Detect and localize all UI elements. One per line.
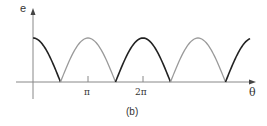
curve-segment-2 bbox=[116, 38, 171, 82]
x-axis-label: θ bbox=[249, 87, 256, 98]
curve-segment-3 bbox=[171, 38, 226, 82]
waveform-curve bbox=[33, 38, 250, 82]
y-axis-label: e bbox=[20, 3, 26, 14]
x-axis-arrow-icon bbox=[249, 80, 256, 85]
tick-label-2pi: 2π bbox=[135, 88, 147, 97]
curve-segment-4 bbox=[226, 39, 251, 82]
curve-segment-1 bbox=[61, 38, 116, 82]
tick-label-pi: π bbox=[84, 88, 90, 97]
figure-caption: (b) bbox=[126, 107, 138, 117]
y-axis-arrow-icon bbox=[31, 8, 36, 15]
curve-segment-0 bbox=[33, 38, 61, 82]
